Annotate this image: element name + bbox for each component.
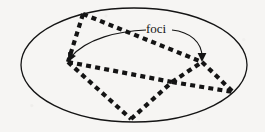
figure-canvas: foci — [0, 0, 265, 132]
edge-left-to-mid-junction — [68, 62, 172, 82]
edge-left-to-bottom — [68, 62, 131, 119]
edge-mid-junction-to-right-upper — [172, 62, 202, 82]
edge-right-upper-to-right-edge — [202, 62, 233, 92]
right-arrow-head — [198, 53, 207, 62]
foci-label: foci — [146, 21, 167, 36]
ellipse-outline — [21, 8, 247, 122]
diagram-svg: foci — [0, 0, 265, 132]
edge-bottom-to-mid-junction — [131, 82, 172, 119]
